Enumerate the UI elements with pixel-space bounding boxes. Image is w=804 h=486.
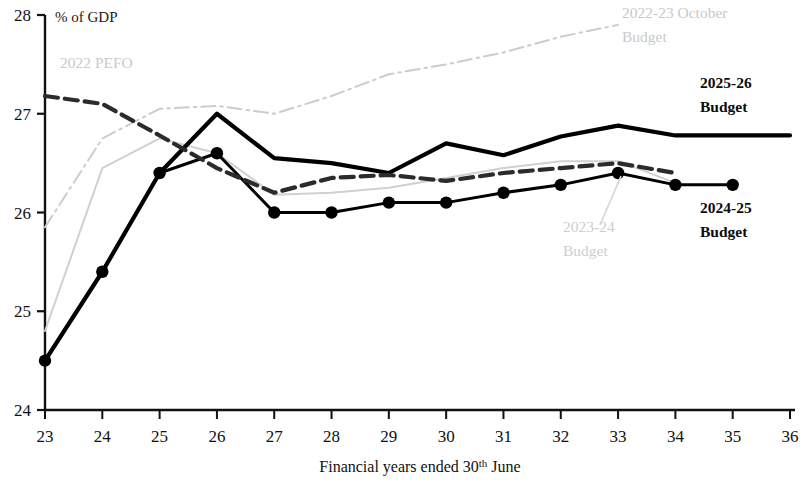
ann-2023-24-l2: Budget: [563, 242, 608, 259]
y-tick-label-group: 2425262728: [14, 6, 32, 420]
y-tick-label-28: 28: [14, 6, 31, 25]
x-tick-label-group: 2324252627282930313233343536: [37, 427, 799, 446]
ann-2025-26-l2: Budget: [700, 98, 748, 115]
data-point-1-30: [440, 196, 452, 208]
data-point-1-26: [211, 147, 223, 159]
ann-2024-25-l2: Budget: [700, 223, 748, 240]
x-tick-label-28: 28: [323, 427, 340, 446]
x-tick-label-26: 26: [208, 427, 225, 446]
ann-2023-24-l1: 2023-24: [563, 218, 615, 235]
data-point-1-27: [268, 206, 280, 218]
line-chart: 2425262728 2324252627282930313233343536 …: [0, 0, 804, 486]
marker-layer: [39, 147, 739, 367]
y-tick-label-27: 27: [14, 105, 32, 124]
x-tick-label-33: 33: [610, 427, 627, 446]
series-line-2022-pefo: [45, 96, 675, 193]
x-tick-label-31: 31: [495, 427, 512, 446]
y-axis-unit-label: % of GDP: [55, 9, 118, 25]
chart-container: 2425262728 2324252627282930313233343536 …: [0, 0, 804, 486]
x-tick-label-23: 23: [37, 427, 54, 446]
ann-2022-pefo: 2022 PEFO: [60, 54, 133, 71]
y-tick-label-26: 26: [14, 204, 31, 223]
data-point-1-23: [39, 354, 51, 366]
data-point-1-31: [497, 187, 509, 199]
x-tick-label-27: 27: [266, 427, 284, 446]
x-tick-label-29: 29: [380, 427, 397, 446]
x-tick-group: [45, 410, 790, 419]
y-tick-label-24: 24: [14, 401, 32, 420]
ann-2022-23-oct-l1: 2022-23 October: [622, 4, 728, 21]
y-tick-label-25: 25: [14, 302, 31, 321]
data-point-1-35: [726, 179, 738, 191]
series-line-2025-26-budget: [45, 114, 790, 361]
dark-series-layer: [45, 96, 790, 361]
x-tick-label-36: 36: [782, 427, 799, 446]
data-point-1-25: [153, 167, 165, 179]
axis-group: [45, 15, 795, 410]
data-point-1-24: [96, 266, 108, 278]
data-point-1-28: [325, 206, 337, 218]
x-tick-label-30: 30: [438, 427, 455, 446]
data-point-1-34: [669, 179, 681, 191]
series-line-2024-25-budget: [45, 153, 733, 360]
x-tick-label-34: 34: [667, 427, 685, 446]
x-tick-label-32: 32: [552, 427, 569, 446]
x-axis-title-main: Financial years ended 30: [319, 458, 479, 476]
ann-2022-23-oct-l2: Budget: [622, 28, 667, 45]
x-tick-label-24: 24: [94, 427, 112, 446]
x-axis-title: Financial years ended 30th June: [319, 457, 520, 476]
data-point-1-33: [612, 167, 624, 179]
ann-2024-25-l1: 2024-25: [700, 199, 752, 216]
data-point-1-29: [383, 196, 395, 208]
x-tick-label-35: 35: [724, 427, 741, 446]
x-axis-title-tail: June: [487, 458, 520, 475]
ann-2025-26-l1: 2025-26: [700, 74, 752, 91]
data-point-1-32: [555, 179, 567, 191]
x-tick-label-25: 25: [151, 427, 168, 446]
